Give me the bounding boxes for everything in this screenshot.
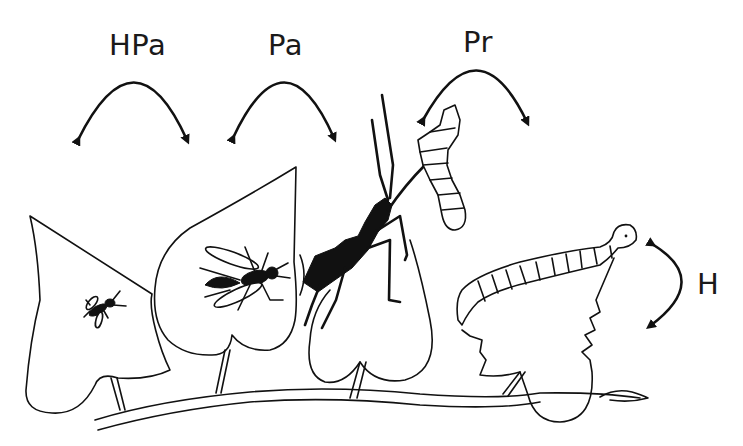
- label-pr: Pr: [463, 28, 493, 57]
- label-pa: Pa: [268, 31, 303, 60]
- predator-bug-icon: [303, 95, 425, 328]
- illustration-canvas: [0, 0, 743, 446]
- herbivore-caterpillar-icon: [457, 225, 636, 325]
- pa-double-arrow-icon: [233, 83, 334, 139]
- h-double-arrow-icon: [650, 244, 682, 326]
- hyperparasitoid-wasp-icon: [84, 291, 126, 329]
- prey-larva-icon: [418, 105, 466, 230]
- label-hpa: HPa: [109, 31, 166, 60]
- leaf-3-left-edge: [300, 255, 304, 295]
- hpa-double-arrow-icon: [78, 83, 187, 141]
- food-web-illustration: HPa Pa Pr H: [0, 0, 743, 446]
- parasitoid-wasp-icon: [200, 243, 290, 312]
- label-h: H: [697, 270, 719, 299]
- pr-double-arrow-icon: [423, 70, 527, 122]
- plant-stem: [95, 389, 648, 430]
